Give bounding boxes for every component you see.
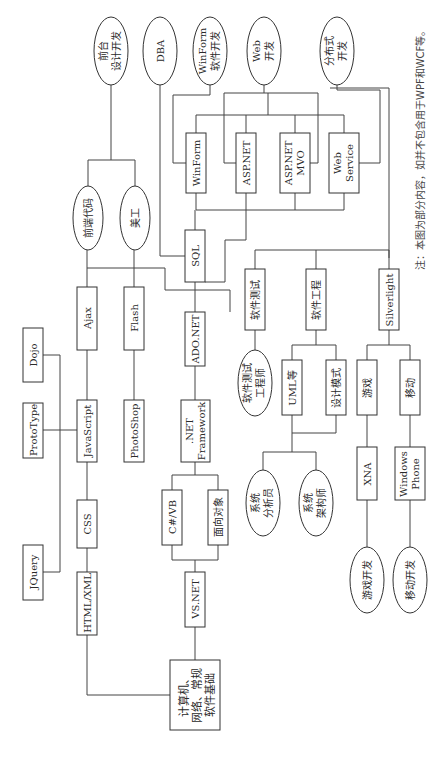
box-aspnet-mvo-line-2: MVO [295, 150, 306, 175]
role-dba-label: DBA [155, 39, 166, 62]
role-system-analyst: 系统 分析员 [246, 470, 280, 536]
box-aspnet-mvo: ASP.NET MVO [280, 133, 310, 193]
box-css-label: CSS [82, 513, 93, 534]
box-windows-phone: Windows Phone [395, 447, 425, 500]
box-uml-label: UML等 [286, 370, 298, 405]
box-uml: UML等 [282, 360, 302, 415]
role-frontend-code: 前端代码 [73, 186, 103, 250]
role-web-dev-line-2: 开发 [263, 41, 275, 61]
box-ajax: Ajax [77, 287, 97, 350]
role-system-analyst-line-2: 分析员 [262, 488, 274, 518]
box-adonet-label: ADO.NET [190, 314, 201, 364]
role-system-analyst-line-1: 系统 [249, 493, 261, 513]
root-line-1: 计算机、 [177, 673, 191, 717]
role-game-dev: 游戏开发 [350, 547, 384, 613]
box-oop: 面向对象 [208, 490, 228, 545]
role-art-design-label: 美工 [129, 208, 141, 228]
box-aspnet-label: ASP.NET [241, 140, 252, 186]
role-mobile-dev: 移动开发 [393, 547, 427, 613]
box-software-testing-label: 软件测试 [249, 280, 261, 320]
box-aspnet: ASP.NET [236, 133, 256, 193]
box-windows-phone-line-2: Phone [410, 458, 421, 490]
box-xna-label: XNA [362, 462, 373, 486]
role-frontend-code-label: 前端代码 [82, 198, 94, 238]
box-flash: Flash [124, 287, 144, 350]
box-photoshop: PhotoShop [124, 400, 144, 462]
role-art-design: 美工 [120, 186, 150, 250]
box-software-testing: 软件测试 [245, 269, 265, 330]
box-html-xml-label: HTML/XML [82, 573, 93, 633]
box-dotnet-framework-line-1: .NET [184, 418, 195, 444]
box-aspnet-mvo-line-1: ASP.NET [283, 140, 294, 186]
root-line-3: 软件基础 [203, 673, 217, 717]
box-javascript: JavaScript [77, 400, 97, 462]
box-mobile-label: 移动 [404, 378, 416, 398]
box-windows-phone-line-1: Windows [398, 451, 409, 497]
box-dojo: Dojo [23, 328, 43, 382]
box-silverlight-label: Silverlight [384, 274, 395, 327]
box-web-service-line-1: Web [332, 152, 343, 174]
role-game-dev-label: 游戏开发 [361, 560, 373, 600]
role-winform-dev-line-2: 软件开发 [209, 31, 221, 71]
box-csharp-vb: C#/VB [162, 490, 182, 545]
role-test-engineer-line-1: 软件测试 [241, 363, 253, 403]
box-prototype: ProtoType [23, 403, 43, 458]
role-winform-dev: WinForm 软件开发 [193, 17, 227, 85]
role-system-architect-line-1: 系统 [302, 493, 314, 513]
box-dotnet-framework-line-2: Framework [196, 401, 207, 460]
box-html-xml: HTML/XML [77, 572, 97, 635]
box-silverlight: Silverlight [379, 269, 399, 330]
role-distributed-dev-line-1: 分布式 [323, 36, 335, 66]
role-test-engineer-line-2: 工程师 [254, 368, 266, 398]
root-line-2: 网络、常规 [190, 668, 204, 723]
box-jquery: JQuery [23, 545, 43, 600]
box-vsnet: VS.NET [185, 572, 205, 627]
box-game: 游戏 [357, 360, 377, 415]
role-test-engineer: 软件测试 工程师 [238, 350, 272, 416]
box-dotnet-framework: .NET Framework [181, 400, 210, 462]
box-web-service-line-2: Service [344, 144, 355, 182]
role-mobile-dev-label: 移动开发 [404, 560, 416, 600]
role-dba: DBA [143, 17, 177, 85]
box-software-engineering-label: 软件工程 [310, 280, 322, 320]
role-distributed-dev-line-2: 开发 [336, 41, 348, 61]
box-ajax-label: Ajax [82, 307, 93, 330]
box-csharp-vb-label: C#/VB [167, 500, 178, 534]
role-web-dev: Web 开发 [247, 17, 281, 85]
box-design-patterns-label: 设计模式 [330, 368, 342, 408]
box-sql: SQL [185, 230, 205, 282]
role-web-dev-line-1: Web [251, 40, 262, 62]
box-prototype-label: ProtoType [28, 404, 39, 456]
box-oop-label: 面向对象 [212, 497, 224, 537]
box-adonet: ADO.NET [185, 312, 205, 366]
footnote: 注：本图为部分内容，如并不包含用于WPF和WCF等。 [414, 26, 426, 270]
learning-path-diagram: 计算机、 网络、常规 软件基础 HTML/XML CSS JavaScript … [0, 0, 439, 758]
box-xna: XNA [357, 447, 377, 500]
role-system-architect: 系统 架构师 [299, 470, 333, 536]
box-sql-label: SQL [190, 245, 201, 267]
box-css: CSS [77, 500, 97, 548]
box-flash-label: Flash [129, 304, 140, 332]
box-vsnet-label: VS.NET [190, 579, 201, 620]
role-distributed-dev: 分布式 开发 [320, 17, 354, 85]
box-design-patterns: 设计模式 [326, 360, 346, 415]
box-winform-label: WinForm [191, 139, 202, 186]
box-photoshop-label: PhotoShop [129, 404, 140, 459]
role-frontend-design-dev: 前台 设计开发 [94, 17, 128, 85]
role-frontend-design-dev-line-2: 设计开发 [110, 31, 122, 71]
box-dojo-label: Dojo [28, 343, 39, 366]
box-web-service: Web Service [329, 133, 359, 193]
box-javascript-label: JavaScript [82, 405, 93, 458]
box-jquery-label: JQuery [28, 554, 39, 590]
role-frontend-design-dev-line-1: 前台 [97, 41, 109, 61]
box-mobile: 移动 [400, 360, 420, 415]
role-winform-dev-line-1: WinForm [197, 27, 208, 74]
root-node: 计算机、 网络、常规 软件基础 [170, 660, 220, 730]
role-system-architect-line-2: 架构师 [315, 488, 327, 518]
box-winform: WinForm [186, 133, 206, 193]
box-software-engineering: 软件工程 [306, 269, 326, 330]
box-game-label: 游戏 [361, 378, 373, 398]
